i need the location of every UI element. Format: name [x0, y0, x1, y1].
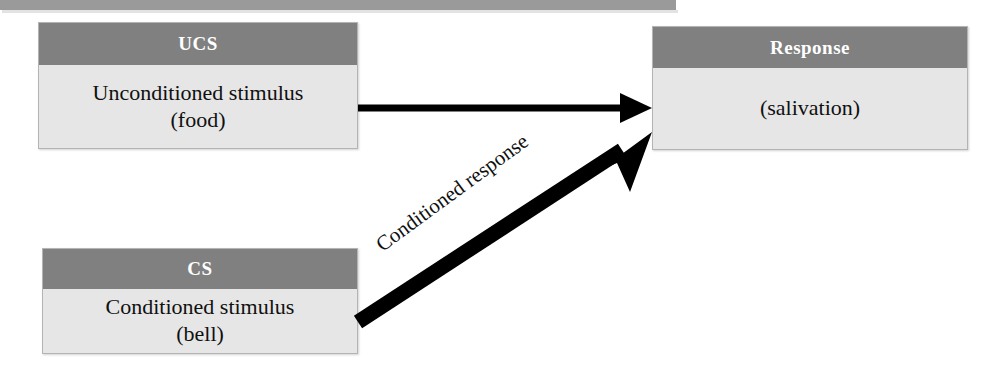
node-body-line: (bell) — [176, 321, 224, 348]
diagram-canvas: UCS Unconditioned stimulus (food) CS Con… — [0, 0, 998, 390]
node-header-ucs: UCS — [39, 23, 357, 65]
node-body-line: Conditioned stimulus — [106, 294, 295, 321]
node-body-line: Unconditioned stimulus — [93, 80, 304, 107]
node-box-response: Response (salivation) — [652, 26, 968, 150]
node-header-response: Response — [653, 27, 967, 68]
node-box-ucs: UCS Unconditioned stimulus (food) — [38, 22, 358, 149]
node-body-response: (salivation) — [653, 68, 967, 149]
node-body-line: (salivation) — [760, 95, 860, 122]
top-decorative-bar — [0, 0, 676, 10]
node-box-cs: CS Conditioned stimulus (bell) — [42, 248, 358, 354]
node-body-line: (food) — [171, 107, 226, 134]
node-header-cs: CS — [43, 249, 357, 289]
edge-label-conditioned-response: Conditioned response — [371, 129, 533, 257]
arrow-ucs-to-response — [358, 93, 652, 123]
top-decorative-bar-shadow — [2, 10, 678, 13]
node-body-ucs: Unconditioned stimulus (food) — [39, 65, 357, 148]
node-body-cs: Conditioned stimulus (bell) — [43, 289, 357, 353]
